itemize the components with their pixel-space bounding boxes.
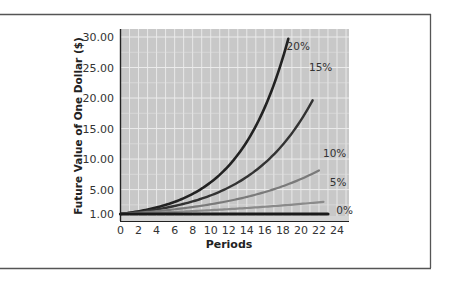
- x-tick-label: 0: [117, 224, 124, 237]
- y-tick-label: 25.00: [83, 62, 115, 75]
- x-axis-label: Periods: [206, 238, 253, 251]
- y-tick-label: 1.00: [90, 208, 115, 221]
- series-label-20pct: 20%: [287, 40, 310, 52]
- chart-figure: 1.005.0010.0015.0020.0025.0030.00 024681…: [0, 0, 453, 281]
- plot-area: [120, 29, 349, 221]
- series-label-0pct: 0%: [336, 204, 353, 216]
- x-tick-label: 10: [204, 224, 218, 237]
- x-tick-label: 24: [330, 224, 344, 237]
- x-tick-labels: 024681012141618202224: [117, 224, 344, 237]
- x-tick-label: 2: [135, 224, 142, 237]
- y-axis-label: Future Value of One Dollar ($): [72, 37, 84, 215]
- series-label-10pct: 10%: [323, 147, 346, 159]
- x-tick-label: 16: [258, 224, 272, 237]
- y-tick-label: 5.00: [90, 184, 115, 197]
- x-tick-label: 4: [153, 224, 160, 237]
- y-tick-label: 30.00: [83, 31, 115, 44]
- x-tick-label: 22: [312, 224, 326, 237]
- y-tick-label: 10.00: [83, 153, 115, 166]
- x-tick-label: 8: [189, 224, 196, 237]
- baseline-band: [121, 216, 349, 221]
- y-tick-label: 15.00: [83, 123, 115, 136]
- series-label-15pct: 15%: [309, 61, 332, 73]
- series-label-5pct: 5%: [330, 176, 347, 188]
- y-tick-labels: 1.005.0010.0015.0020.0025.0030.00: [83, 31, 115, 221]
- x-tick-label: 12: [222, 224, 236, 237]
- x-tick-label: 6: [171, 224, 178, 237]
- y-tick-label: 20.00: [83, 92, 115, 105]
- x-tick-label: 20: [294, 224, 308, 237]
- x-tick-label: 18: [276, 224, 290, 237]
- x-tick-label: 14: [240, 224, 254, 237]
